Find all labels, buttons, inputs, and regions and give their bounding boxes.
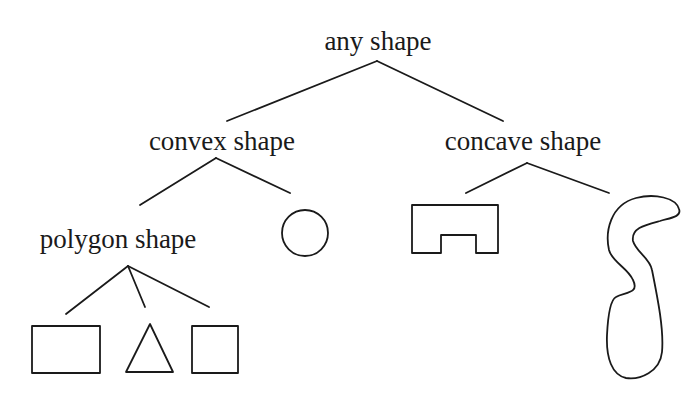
edges-convex	[140, 158, 290, 205]
edge-polygon-square	[128, 266, 209, 307]
edge-convex-polygon	[140, 158, 216, 205]
node-any-shape: any shape	[324, 26, 431, 56]
edges-concave	[466, 163, 609, 193]
edge-convex-circle	[216, 158, 290, 193]
square-icon	[192, 326, 238, 373]
rectangle-icon	[32, 326, 100, 373]
shape-hierarchy-diagram: any shape convex shape concave shape pol…	[0, 0, 694, 401]
edge-root-concave	[377, 61, 503, 121]
edge-root-convex	[227, 61, 377, 121]
circle-icon	[282, 210, 328, 256]
triangle-icon	[126, 324, 173, 372]
edge-concave-blob	[527, 163, 609, 193]
node-concave-shape: concave shape	[445, 126, 602, 156]
notched-rectangle-icon	[412, 205, 498, 253]
edge-polygon-triangle	[128, 266, 145, 307]
edges-root	[227, 61, 503, 121]
node-polygon-shape: polygon shape	[40, 224, 197, 254]
edge-polygon-rectangle	[66, 266, 128, 314]
edges-polygon	[66, 266, 209, 314]
irregular-blob-icon	[607, 196, 680, 378]
edge-concave-notched	[466, 163, 527, 193]
node-convex-shape: convex shape	[149, 126, 295, 156]
